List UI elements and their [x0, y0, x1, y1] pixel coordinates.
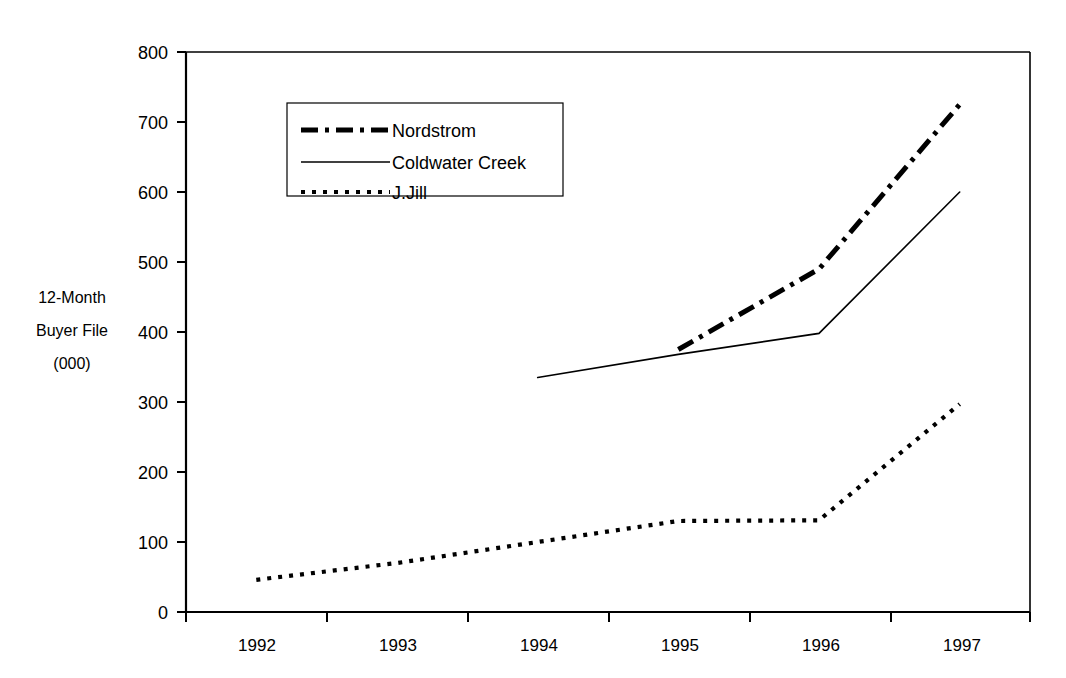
- y-tick-label: 600: [138, 183, 168, 203]
- x-tick-label: 1994: [520, 636, 558, 655]
- y-tick-label: 100: [138, 533, 168, 553]
- y-tick-label: 800: [138, 43, 168, 63]
- x-tick-label: 1993: [379, 636, 417, 655]
- chart-legend: Nordstrom Coldwater Creek J.Jill: [287, 103, 563, 203]
- line-chart: 800 700 600 500 400 300 200 100 0 12-Mon…: [0, 0, 1066, 678]
- y-axis-title-line-2: Buyer File: [36, 322, 108, 339]
- y-axis-title-line-3: (000): [53, 355, 90, 372]
- x-tick-label: 1995: [661, 636, 699, 655]
- x-tick-label: 1992: [238, 636, 276, 655]
- legend-label-nordstrom: Nordstrom: [392, 121, 476, 141]
- x-tick-label: 1996: [802, 636, 840, 655]
- legend-label-jjill: J.Jill: [392, 183, 427, 203]
- x-tick-label: 1997: [943, 636, 981, 655]
- y-tick-label: 300: [138, 393, 168, 413]
- y-axis-title-line-1: 12-Month: [38, 289, 106, 306]
- y-axis-tick-labels: 800 700 600 500 400 300 200 100 0: [138, 43, 168, 623]
- y-tick-label: 500: [138, 253, 168, 273]
- y-tick-label: 700: [138, 113, 168, 133]
- chart-container: 800 700 600 500 400 300 200 100 0 12-Mon…: [0, 0, 1066, 678]
- y-tick-label: 0: [158, 603, 168, 623]
- y-tick-label: 400: [138, 323, 168, 343]
- y-tick-label: 200: [138, 463, 168, 483]
- legend-label-coldwater-creek: Coldwater Creek: [392, 153, 527, 173]
